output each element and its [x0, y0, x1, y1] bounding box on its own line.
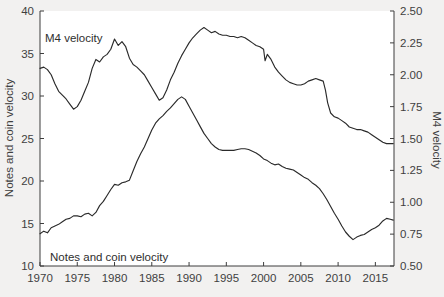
y-axis-right-title: M4 velocity: [431, 111, 443, 169]
m4-velocity-annotation: M4 velocity: [45, 32, 103, 44]
y-right-tick-label: 0.75: [400, 228, 422, 240]
x-tick-label: 1990: [176, 272, 202, 284]
chart-figure: 1970197519801985199019952000200520102015…: [0, 0, 444, 297]
y-right-tick-label: 1.00: [400, 196, 422, 208]
y-right-tick-label: 1.75: [400, 101, 422, 113]
x-tick-label: 1985: [139, 272, 165, 284]
y-left-tick-label: 35: [21, 48, 34, 60]
y-left-tick-label: 25: [21, 133, 34, 145]
x-tick-label: 2015: [363, 272, 389, 284]
velocity-line-chart: 1970197519801985199019952000200520102015…: [0, 0, 444, 297]
y-right-tick-label: 0.50: [400, 260, 422, 272]
y-right-tick-label: 1.25: [400, 164, 422, 176]
y-axis-left-title: Notes and coin velocity: [3, 79, 15, 198]
y-right-tick-label: 2.25: [400, 37, 422, 49]
y-left-tick-label: 30: [21, 90, 34, 102]
notes-and-coin-velocity-annotation: Notes and coin velocity: [50, 251, 169, 263]
y-right-tick-label: 2.50: [400, 5, 422, 17]
y-left-tick-label: 10: [21, 260, 34, 272]
x-tick-label: 1995: [214, 272, 240, 284]
y-left-tick-label: 20: [21, 175, 34, 187]
y-right-tick-label: 2.00: [400, 69, 422, 81]
y-right-tick-label: 1.50: [400, 133, 422, 145]
x-tick-label: 1970: [27, 272, 53, 284]
x-tick-label: 1975: [64, 272, 90, 284]
x-tick-label: 2005: [288, 272, 314, 284]
x-tick-label: 2000: [251, 272, 277, 284]
x-tick-label: 1980: [102, 272, 128, 284]
plot-area-background: [40, 11, 394, 266]
x-tick-label: 2010: [325, 272, 351, 284]
y-left-tick-label: 40: [21, 5, 34, 17]
y-left-tick-label: 15: [21, 218, 34, 230]
